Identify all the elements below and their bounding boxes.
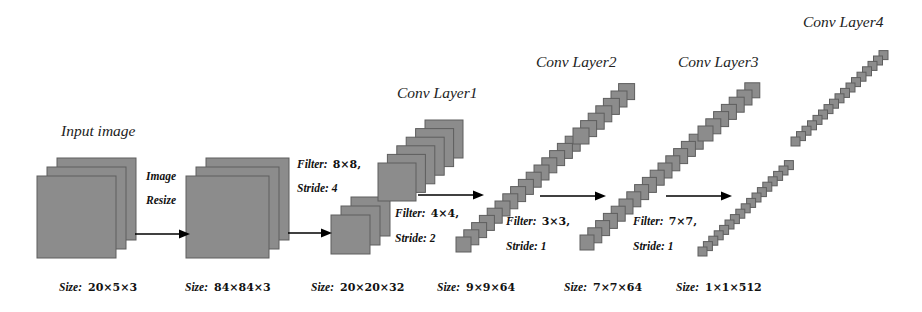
feature-map-square (331, 215, 370, 254)
stage-title-conv4: Conv Layer4 (803, 13, 884, 31)
feature-map-square (186, 176, 269, 258)
filter-value: 3×3, (542, 215, 570, 228)
stride-key: Stride: (297, 182, 329, 194)
filter-label-t4: Filter:7×7, (633, 215, 697, 228)
stride-value: 1 (668, 240, 674, 252)
conv2-arrow-icon (418, 191, 484, 200)
feature-map-square (573, 128, 589, 144)
filter-key: Filter: (633, 215, 664, 227)
stride-label-t1: Stride: 4 (297, 182, 338, 194)
stride-key: Stride: (633, 240, 665, 252)
feature-map-square (791, 137, 800, 146)
filter-value: 8×8, (333, 158, 361, 171)
filter-key: Filter: (506, 215, 537, 227)
cnn-architecture-diagram (0, 0, 922, 312)
filter-value: 4×4, (431, 207, 459, 220)
resize-label-line2: Resize (146, 194, 176, 206)
size-key: Size: (59, 281, 82, 293)
size-value: 20×5×3 (88, 281, 137, 294)
size-label-conv1: Size:20×20×32 (311, 281, 404, 294)
size-label-input: Size:20×5×3 (59, 281, 137, 294)
size-value: 7×7×64 (593, 281, 642, 294)
size-value: 20×20×32 (340, 281, 404, 294)
stride-value: 1 (541, 240, 547, 252)
conv1-arrow-icon (288, 229, 332, 238)
size-label-conv2: Size:9×9×64 (437, 281, 515, 294)
size-key: Size: (311, 281, 334, 293)
feature-map-blocks (37, 51, 888, 258)
filter-label-t1: Filter:8×8, (297, 158, 361, 171)
resize-arrow-icon (135, 230, 190, 239)
stage-title-conv2: Conv Layer2 (536, 53, 617, 71)
stride-value: 4 (332, 182, 338, 194)
stride-key: Stride: (395, 232, 427, 244)
filter-key: Filter: (395, 207, 426, 219)
size-value: 1×1×512 (705, 281, 762, 294)
stage-input (37, 158, 136, 258)
stride-label-t3: Stride: 1 (506, 240, 547, 252)
size-key: Size: (185, 281, 208, 293)
size-key: Size: (676, 281, 699, 293)
stride-key: Stride: (506, 240, 538, 252)
size-label-conv3: Size:7×7×64 (564, 281, 642, 294)
size-key: Size: (437, 281, 460, 293)
stage-resized (186, 158, 289, 258)
filter-value: 7×7, (669, 215, 697, 228)
size-value: 9×9×64 (466, 281, 515, 294)
resize-label-line1: Image (146, 170, 176, 182)
size-key: Size: (564, 281, 587, 293)
feature-map-square (378, 163, 416, 201)
stride-value: 2 (430, 232, 436, 244)
conv4-arrow-icon (666, 192, 732, 201)
filter-label-t3: Filter:3×3, (506, 215, 570, 228)
stride-label-t4: Stride: 1 (633, 240, 674, 252)
conv3-arrow-icon (540, 192, 606, 201)
size-label-resized: Size:84×84×3 (185, 281, 271, 294)
size-value: 84×84×3 (214, 281, 271, 294)
filter-key: Filter: (297, 158, 328, 170)
stage-title-conv3: Conv Layer3 (678, 53, 759, 71)
feature-map-square (698, 126, 713, 141)
feature-map-square (456, 237, 471, 252)
filter-label-t2: Filter:4×4, (395, 207, 459, 220)
feature-map-square (37, 176, 116, 258)
stride-label-t2: Stride: 2 (395, 232, 436, 244)
feature-map-square (698, 247, 707, 256)
feature-map-square (580, 235, 594, 250)
stage-conv4 (698, 51, 888, 256)
stage-title-input: Input image (61, 122, 135, 140)
size-label-conv4: Size:1×1×512 (676, 281, 762, 294)
stage-title-conv1: Conv Layer1 (397, 84, 478, 102)
